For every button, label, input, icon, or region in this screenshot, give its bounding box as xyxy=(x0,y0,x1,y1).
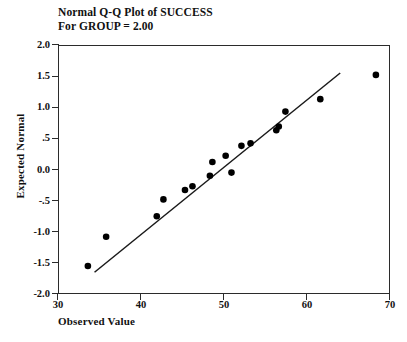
chart-title-block: Normal Q-Q Plot of SUCCESS For GROUP = 2… xyxy=(58,5,388,33)
y-axis-tick xyxy=(52,138,59,139)
y-axis-tick-label-text: 2.0 xyxy=(6,39,50,50)
data-point xyxy=(282,108,289,115)
y-axis-tick xyxy=(52,231,59,232)
data-point xyxy=(182,187,189,194)
data-point xyxy=(103,233,110,240)
y-axis-tick-label: 1.5 xyxy=(0,70,50,81)
y-axis-tick xyxy=(52,169,59,170)
data-point xyxy=(209,159,216,166)
y-axis-tick-label: -1.5 xyxy=(0,257,50,268)
y-axis-tick-label: 2.0 xyxy=(0,39,50,50)
x-axis-tick-label-text: 70 xyxy=(370,299,407,311)
y-axis-tick-label-text: .5 xyxy=(6,132,50,143)
data-point xyxy=(85,263,92,270)
y-axis-tick-label: -1.0 xyxy=(0,226,50,237)
y-axis-tick-label-text: 1.0 xyxy=(6,101,50,112)
y-axis-title: Expected Normal xyxy=(14,96,26,216)
y-axis-tick-label-text: -1.5 xyxy=(6,257,50,268)
data-point xyxy=(247,140,254,147)
y-axis-tick xyxy=(52,44,59,45)
x-axis-tick-label: 70 xyxy=(370,299,407,311)
data-point xyxy=(189,183,196,190)
x-axis-tick-label-text: 40 xyxy=(121,299,161,311)
data-point xyxy=(160,196,167,203)
data-point xyxy=(373,72,380,79)
data-point xyxy=(153,213,160,220)
y-axis-tick-label-text: -.5 xyxy=(6,195,50,206)
chart-subtitle: For GROUP = 2.00 xyxy=(58,19,388,33)
y-axis-tick xyxy=(52,200,59,201)
data-point xyxy=(317,96,324,103)
x-axis-tick-label: 50 xyxy=(204,299,244,311)
y-axis-tick-label-text: 0.0 xyxy=(6,164,50,175)
x-axis-title: Observed Value xyxy=(58,315,218,327)
y-axis-tick xyxy=(52,76,59,77)
y-axis-tick-label-text: -2.0 xyxy=(6,288,50,299)
y-axis-tick-label-text: 1.5 xyxy=(6,70,50,81)
y-axis-tick-label: -2.0 xyxy=(0,288,50,299)
data-point xyxy=(238,143,245,150)
chart-title: Normal Q-Q Plot of SUCCESS xyxy=(58,5,388,19)
data-point xyxy=(207,172,214,179)
x-axis-tick-label-text: 60 xyxy=(287,299,327,311)
qq-plot-figure: Normal Q-Q Plot of SUCCESS For GROUP = 2… xyxy=(0,0,407,342)
x-axis-tick-label: 60 xyxy=(287,299,327,311)
data-point xyxy=(222,153,229,160)
data-point xyxy=(275,123,282,130)
x-axis-tick-label: 40 xyxy=(121,299,161,311)
x-axis-tick-label: 30 xyxy=(38,299,78,311)
x-axis-tick-label-text: 50 xyxy=(204,299,244,311)
x-axis-tick-label-text: 30 xyxy=(38,299,78,311)
data-point xyxy=(228,169,235,176)
y-axis-tick xyxy=(52,262,59,263)
reference-line xyxy=(95,73,341,272)
plot-canvas xyxy=(58,45,390,294)
y-axis-tick-label-text: -1.0 xyxy=(6,226,50,237)
y-axis-tick xyxy=(52,107,59,108)
